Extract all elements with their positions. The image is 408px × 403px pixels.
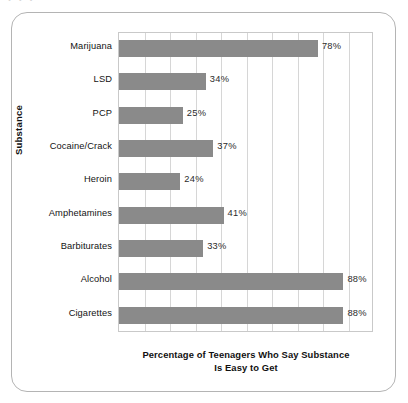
bar — [119, 240, 203, 257]
bar-row: 41% — [119, 200, 372, 233]
bar-value-label: 78% — [322, 41, 342, 51]
x-axis-title-line-2: Is Easy to Get — [100, 362, 392, 375]
y-axis-tick-label: Marijuana — [0, 41, 112, 51]
bar-row: 88% — [119, 266, 372, 299]
plot-area: 78%34%25%37%24%41%33%88%88% — [118, 32, 373, 332]
y-axis-tick-label: Cocaine/Crack — [0, 141, 112, 151]
y-axis-tick-label: Cigarettes — [0, 308, 112, 318]
bar-value-label: 88% — [347, 308, 367, 318]
bar-value-label: 34% — [210, 74, 230, 84]
bar — [119, 173, 180, 190]
bar-row: 34% — [119, 66, 372, 99]
y-axis-tick-label: Amphetamines — [0, 208, 112, 218]
bar-row: 78% — [119, 33, 372, 66]
y-axis-tick-label: PCP — [0, 108, 112, 118]
bar-value-label: 24% — [184, 174, 204, 184]
bar-row: 33% — [119, 233, 372, 266]
y-axis-title: Substance — [13, 90, 24, 170]
bar-chart: Substance 78%34%25%37%24%41%33%88%88% Ma… — [0, 0, 408, 403]
bar — [119, 207, 224, 224]
y-axis-tick-label: Heroin — [0, 174, 112, 184]
bar — [119, 73, 206, 90]
bar-row: 37% — [119, 133, 372, 166]
y-axis-tick-label: Alcohol — [0, 274, 112, 284]
x-axis-title: Percentage of Teenagers Who Say Substanc… — [100, 349, 392, 374]
bar-value-label: 33% — [207, 241, 227, 251]
x-axis-title-line-1: Percentage of Teenagers Who Say Substanc… — [142, 349, 349, 360]
bar — [119, 307, 343, 324]
bar-value-label: 41% — [228, 208, 248, 218]
bar-value-label: 25% — [187, 108, 207, 118]
bar-row: 88% — [119, 300, 372, 333]
bar-row: 25% — [119, 100, 372, 133]
y-axis-tick-label: LSD — [0, 74, 112, 84]
y-axis-tick-label: Barbiturates — [0, 241, 112, 251]
bar — [119, 107, 183, 124]
bar-value-label: 37% — [217, 141, 237, 151]
bar — [119, 273, 343, 290]
bar — [119, 40, 318, 57]
bar-row: 24% — [119, 166, 372, 199]
bar-value-label: 88% — [347, 274, 367, 284]
bar — [119, 140, 213, 157]
